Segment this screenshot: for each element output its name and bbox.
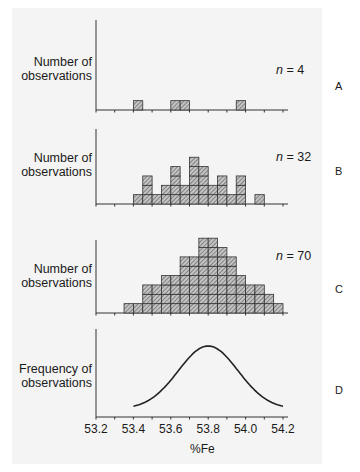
x-tick-label: 54.0 (234, 422, 257, 436)
histogram-cell (227, 294, 236, 303)
histogram-cell (171, 101, 180, 110)
histogram-cell (218, 285, 227, 294)
histogram-cell (161, 294, 170, 303)
histogram-cell (152, 195, 161, 204)
histogram-cell (274, 304, 283, 313)
histogram-cell (236, 195, 245, 204)
histogram-cell (199, 285, 208, 294)
histogram-cell (190, 167, 199, 176)
histogram-cell (180, 257, 189, 266)
histogram-cell (143, 285, 152, 294)
histogram-cell (255, 285, 264, 294)
histogram-cell (199, 195, 208, 204)
histogram-cell (218, 304, 227, 313)
x-tick-label: 54.2 (271, 422, 294, 436)
panel-d-ylabel: Frequency of observations (2, 362, 92, 390)
histogram-cell (208, 195, 217, 204)
histogram-cell (143, 294, 152, 303)
histogram-cell (246, 285, 255, 294)
histogram-cell (199, 294, 208, 303)
panel-c-n-label: n = 70 (276, 249, 311, 263)
histogram-cell (190, 257, 199, 266)
histogram-cell (208, 294, 217, 303)
histogram-cell (218, 248, 227, 257)
x-tick-label: 53.8 (197, 422, 220, 436)
panel-b-ylabel: Number of observations (2, 151, 92, 179)
x-tick-label: 53.4 (122, 422, 145, 436)
histogram-cell (199, 304, 208, 313)
histogram-cell (236, 304, 245, 313)
histogram-cell (161, 185, 170, 194)
histogram-cell (152, 294, 161, 303)
histogram-cell (236, 285, 245, 294)
histogram-cell (227, 304, 236, 313)
histogram-cell (208, 185, 217, 194)
histogram-cell (218, 294, 227, 303)
histogram-cell (199, 248, 208, 257)
panel-c-ylabel: Number of observations (2, 262, 92, 290)
histogram-cell (227, 195, 236, 204)
histogram-cell (227, 285, 236, 294)
histogram-cell (161, 285, 170, 294)
histogram-cell (161, 276, 170, 285)
histogram-cell (143, 176, 152, 185)
histogram-cell (264, 294, 273, 303)
histogram-cell (180, 285, 189, 294)
histogram-cell (171, 167, 180, 176)
histogram-cell (180, 304, 189, 313)
histogram-cell (208, 257, 217, 266)
histogram-cell (199, 238, 208, 247)
histogram-cell (190, 195, 199, 204)
histogram-cell (218, 276, 227, 285)
panel-a-n-label: n = 4 (276, 63, 304, 77)
histogram-cell (199, 167, 208, 176)
histogram-cell (199, 257, 208, 266)
histogram-cell (199, 176, 208, 185)
histogram-cell (180, 294, 189, 303)
histogram-cell (190, 276, 199, 285)
histogram-cell (218, 195, 227, 204)
histogram-cell (190, 285, 199, 294)
histogram-cell (190, 176, 199, 185)
histogram-cell (171, 176, 180, 185)
histogram-cell (180, 276, 189, 285)
histogram-cell (236, 294, 245, 303)
histogram-cell (171, 304, 180, 313)
histogram-cell (190, 266, 199, 275)
histogram-cell (218, 185, 227, 194)
histogram-cell (180, 266, 189, 275)
histogram-cell (190, 157, 199, 166)
histogram-cell (227, 276, 236, 285)
histogram-cell (171, 294, 180, 303)
histogram-cell (218, 266, 227, 275)
histogram-cell (264, 304, 273, 313)
x-tick-label: 53.2 (84, 422, 107, 436)
histogram-cell (255, 195, 264, 204)
panel-b-n-label: n = 32 (276, 150, 311, 164)
histogram-cell (255, 304, 264, 313)
panel-letter-b: B (335, 165, 342, 177)
histogram-cell (152, 304, 161, 313)
histogram-cell (246, 294, 255, 303)
histogram-cell (227, 257, 236, 266)
histogram-cell (152, 285, 161, 294)
histogram-cell (161, 304, 170, 313)
histogram-cell (199, 185, 208, 194)
histogram-cell (171, 276, 180, 285)
histogram-cell (133, 101, 142, 110)
histogram-cell (236, 101, 245, 110)
histogram-cell (180, 185, 189, 194)
histogram-cell (246, 304, 255, 313)
histogram-cell (218, 176, 227, 185)
normal-curve (133, 346, 283, 406)
histogram-cell (208, 238, 217, 247)
histogram-cell (133, 195, 142, 204)
histogram-cell (208, 276, 217, 285)
histogram-cell (143, 185, 152, 194)
histogram-cell (190, 185, 199, 194)
histogram-cell (236, 276, 245, 285)
panel-letter-c: C (335, 283, 343, 295)
histogram-cell (227, 266, 236, 275)
x-axis-label: %Fe (190, 442, 215, 456)
histogram-cell (208, 266, 217, 275)
